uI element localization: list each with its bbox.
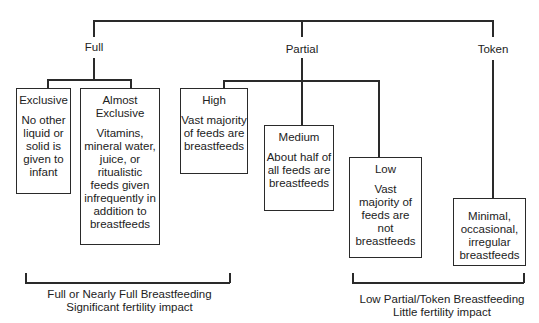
top-connector — [93, 20, 493, 22]
box-description: No other liquid or solid is given to inf… — [17, 114, 70, 179]
box-title: Exclusive — [17, 94, 70, 107]
breastfeeding-classification-diagram: Full Partial Token Exclusive No other li… — [0, 0, 539, 323]
partial-stem-top — [301, 20, 303, 37]
caption-line1: Full or Nearly Full Breastfeeding — [27, 288, 232, 301]
bracket-left-caption: Full or Nearly Full Breastfeeding Signif… — [27, 288, 232, 314]
box-exclusive: Exclusive No other liquid or solid is gi… — [16, 88, 71, 194]
box-title: High — [181, 94, 247, 107]
box-description: Vast majority of feeds are not breastfee… — [350, 183, 421, 248]
category-full: Full — [73, 41, 115, 54]
category-token: Token — [469, 43, 517, 56]
bracket-left-tick-b — [229, 273, 231, 283]
box-low: Low Vast majority of feeds are not breas… — [349, 157, 422, 258]
box-description: Vitamins, mineral water, juice, or ritua… — [81, 127, 159, 231]
box-title: Medium — [265, 131, 333, 144]
box-almost-exclusive: Almost Exclusive Vitamins, mineral water… — [80, 88, 160, 245]
bracket-right-caption: Low Partial/Token Breastfeeding Little f… — [352, 293, 532, 319]
partial-branch — [223, 80, 379, 82]
token-stem-top — [492, 20, 494, 37]
full-stem-top — [93, 20, 95, 37]
box-high: High Vast majority of feeds are breastfe… — [180, 88, 248, 174]
bracket-right-tick-a — [352, 273, 354, 283]
bracket-right-tick-b — [523, 273, 525, 283]
bracket-left-bar — [25, 282, 230, 284]
low-drop — [378, 80, 380, 158]
category-partial: Partial — [277, 43, 327, 56]
box-title: Almost Exclusive — [81, 94, 159, 120]
box-token: Minimal, occasional, irregular breastfee… — [453, 198, 526, 266]
caption-line2: Little fertility impact — [352, 306, 532, 319]
box-description: Minimal, occasional, irregular breastfee… — [454, 210, 525, 262]
box-description: About half of all feeds are breastfeeds — [265, 151, 333, 190]
bracket-right-bar — [352, 282, 524, 284]
caption-line2: Significant fertility impact — [27, 301, 232, 314]
box-title: Low — [350, 163, 421, 176]
box-description: Vast majority of feeds are breastfeeds — [181, 114, 247, 153]
full-branch — [47, 79, 131, 81]
box-medium: Medium About half of all feeds are breas… — [264, 125, 334, 211]
full-stem-bottom — [93, 58, 95, 80]
bracket-left-tick-a — [25, 273, 27, 283]
token-stem-bottom — [492, 60, 494, 199]
partial-stem-bottom — [301, 58, 303, 126]
caption-line1: Low Partial/Token Breastfeeding — [352, 293, 532, 306]
